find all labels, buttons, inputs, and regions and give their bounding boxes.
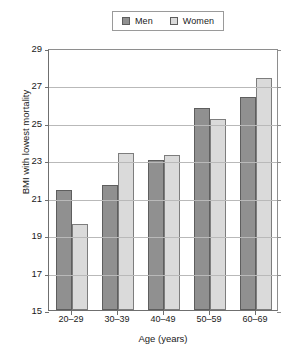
bar-men-20–29 — [56, 190, 72, 310]
gridline — [49, 237, 277, 238]
y-axis-tick-label: 27 — [31, 82, 42, 92]
gridline — [49, 125, 277, 126]
gridline — [49, 87, 277, 88]
legend-swatch-women — [170, 17, 178, 25]
y-axis-tick-mark — [45, 200, 49, 201]
bars-layer — [49, 50, 277, 310]
y-axis-tick-mark — [45, 237, 49, 238]
y-axis-tick-label: 29 — [31, 44, 42, 54]
bar-women-50–59 — [210, 119, 226, 310]
x-axis-tick-label: 30–39 — [104, 315, 129, 324]
x-axis-tick-label: 50–59 — [196, 315, 221, 324]
y-axis-tick-label: 15 — [31, 306, 42, 316]
y-axis-tick-label: 25 — [31, 119, 42, 129]
y-axis-tick-label: 21 — [31, 194, 42, 204]
y-axis-tick-label: 23 — [31, 157, 42, 167]
legend-item-women: Women — [170, 17, 214, 26]
gridline — [49, 275, 277, 276]
bar-chart: Men Women 2927252321191715 BMI with lowe… — [0, 0, 297, 355]
legend-label-men: Men — [135, 17, 153, 26]
legend-item-men: Men — [122, 17, 153, 26]
bar-men-30–39 — [102, 185, 118, 310]
x-axis-tick-label: 40–49 — [150, 315, 175, 324]
y-axis-tick-mark — [45, 87, 49, 88]
x-axis-tick-label: 60–69 — [242, 315, 267, 324]
y-axis-tick-mark-right — [277, 200, 281, 201]
bar-men-50–59 — [194, 108, 210, 310]
legend-label-women: Women — [183, 17, 214, 26]
y-axis-tick-mark — [45, 275, 49, 276]
y-axis-tick-mark — [45, 125, 49, 126]
y-axis-tick-mark-right — [277, 87, 281, 88]
plot-area — [48, 49, 278, 311]
y-axis-tick-mark — [45, 162, 49, 163]
y-axis-tick-label: 17 — [31, 269, 42, 279]
bar-men-60–69 — [240, 97, 256, 310]
bar-women-30–39 — [118, 153, 134, 310]
legend-swatch-men — [122, 17, 130, 25]
y-axis-tick-mark-right — [277, 50, 281, 51]
y-axis-tick-mark-right — [277, 237, 281, 238]
y-axis-tick-mark — [45, 50, 49, 51]
bar-women-40–49 — [164, 155, 180, 310]
y-axis-tick-mark-right — [277, 162, 281, 163]
bar-men-40–49 — [148, 160, 164, 310]
y-axis-title: BMI with lowest mortality — [21, 62, 31, 222]
y-axis-tick-mark-right — [277, 275, 281, 276]
gridline — [49, 162, 277, 163]
chart-legend: Men Women — [112, 11, 224, 31]
x-axis-title: Age (years) — [48, 334, 278, 344]
y-axis-tick-mark-right — [277, 125, 281, 126]
gridline — [49, 200, 277, 201]
y-axis-tick-label: 19 — [31, 231, 42, 241]
x-axis-tick-label: 20–29 — [58, 315, 83, 324]
x-axis-tick-labels: 20–2930–3940–4950–5960–69 — [48, 315, 278, 329]
